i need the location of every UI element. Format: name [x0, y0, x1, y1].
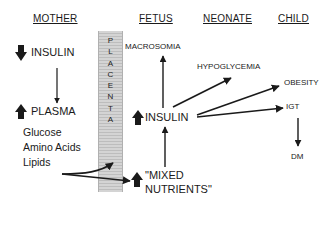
mixed-nutrients-line2: NUTRIENTS": [145, 184, 212, 195]
down-block-arrow-icon: [15, 45, 27, 61]
child-dm-label: DM: [291, 153, 303, 161]
fetus-macrosomia-label: MACROSOMIA: [125, 43, 181, 51]
up-block-arrow-icon: [15, 104, 27, 119]
up-block-arrow-icon: [131, 172, 143, 187]
fetus-insulin-label: INSULIN: [145, 112, 188, 123]
nutrient-glucose: Glucose: [23, 127, 62, 138]
neonate-hypoglycemia-label: HYPOGLYCEMIA: [197, 63, 260, 71]
child-obesity-label: OBESITY: [284, 79, 319, 87]
mother-insulin-label: INSULIN: [31, 47, 74, 58]
child-igt-label: IGT: [286, 103, 299, 111]
mixed-nutrients-line1: "MIXED: [145, 170, 184, 181]
up-block-arrow-icon: [132, 110, 144, 125]
nutrient-lipids: Lipids: [23, 157, 50, 168]
nutrient-amino-acids: Amino Acids: [23, 142, 81, 153]
mother-plasma-label: PLASMA: [31, 106, 76, 117]
